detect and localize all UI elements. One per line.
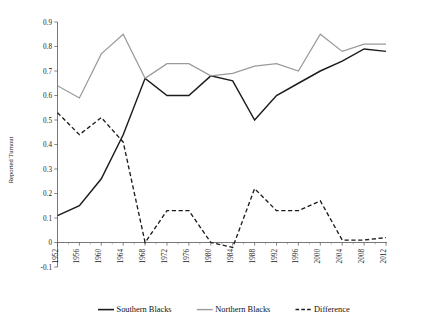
legend-label-northern-blacks: Northern Blacks	[215, 305, 270, 314]
y-tick-label: 0.1	[43, 215, 52, 223]
y-tick-marks	[54, 22, 57, 267]
x-tick-label: 2004	[336, 249, 344, 264]
y-tick-label: -0.1	[41, 264, 53, 272]
chart-root: -0.100.10.20.30.40.50.60.70.80.9 1952195…	[0, 0, 427, 327]
x-tick-label: 1964	[117, 249, 125, 264]
series-line-southern-blacks	[58, 49, 387, 216]
x-tick-label: 1960	[95, 249, 103, 264]
x-tick-label: 1988	[249, 249, 257, 264]
chart-legend: Southern BlacksNorthern BlacksDifference	[98, 305, 350, 314]
x-tick-label: 1956	[73, 249, 81, 264]
x-tick-label: 2000	[314, 249, 322, 264]
y-tick-label: 0.8	[43, 43, 52, 51]
y-tick-label: 0.2	[43, 190, 52, 198]
x-tick-label: 1968	[139, 249, 147, 264]
y-tick-label: 0.4	[43, 141, 52, 149]
legend-label-southern-blacks: Southern Blacks	[117, 305, 172, 314]
series-line-difference	[58, 113, 387, 248]
x-tick-label: 1972	[161, 249, 169, 264]
x-tick-label: 1992	[271, 249, 279, 264]
data-series-group	[58, 34, 387, 247]
x-tick-label: 2012	[380, 249, 388, 264]
x-tick-label: 1996	[292, 249, 300, 264]
x-tick-label: 1952	[52, 249, 60, 264]
y-tick-label: 0.9	[43, 19, 52, 27]
x-tick-label: 1980	[205, 249, 213, 264]
x-tick-marks	[58, 243, 387, 246]
x-tick-label: 2008	[358, 249, 366, 264]
turnout-line-chart: -0.100.10.20.30.40.50.60.70.80.9 1952195…	[0, 0, 427, 327]
y-axis: -0.100.10.20.30.40.50.60.70.80.9	[41, 19, 58, 272]
x-tick-label: 1984	[227, 249, 235, 264]
y-tick-label: 0.7	[43, 68, 52, 76]
x-tick-label: 1976	[183, 249, 191, 264]
y-tick-label: 0.5	[43, 117, 52, 125]
series-line-northern-blacks	[58, 34, 387, 98]
x-tick-labels: 1952195619601964196819721976198019841988…	[52, 249, 389, 264]
y-axis-title: Reported Turnout	[7, 136, 14, 183]
y-tick-labels: -0.100.10.20.30.40.50.60.70.80.9	[41, 19, 53, 272]
y-tick-label: 0.6	[43, 92, 52, 100]
legend-label-difference: Difference	[314, 305, 350, 314]
y-tick-label: 0	[48, 239, 52, 247]
y-tick-label: 0.3	[43, 166, 52, 174]
x-axis: 1952195619601964196819721976198019841988…	[52, 243, 389, 264]
